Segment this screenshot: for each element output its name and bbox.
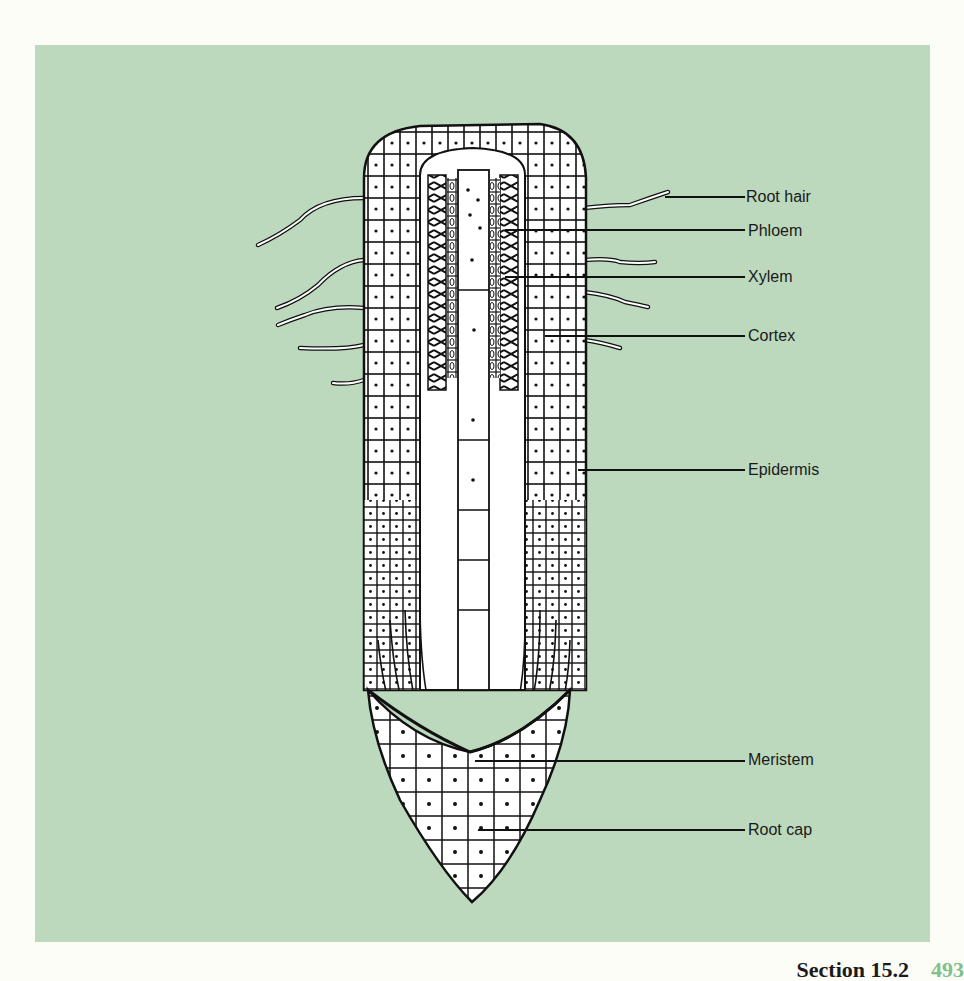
root-cap — [368, 690, 570, 902]
label-root-hair: Root hair — [746, 189, 811, 205]
root-hairs-right — [584, 192, 668, 348]
page-footer: Section 15.2493 — [797, 959, 964, 981]
label-meristem: Meristem — [748, 752, 814, 768]
page-number: 493 — [931, 957, 964, 981]
label-phloem: Phloem — [748, 223, 802, 239]
label-cortex: Cortex — [748, 328, 795, 344]
label-xylem: Xylem — [748, 269, 792, 285]
label-root-cap: Root cap — [748, 822, 812, 838]
label-epidermis: Epidermis — [748, 462, 819, 478]
section-label: Section 15.2 — [797, 957, 909, 981]
